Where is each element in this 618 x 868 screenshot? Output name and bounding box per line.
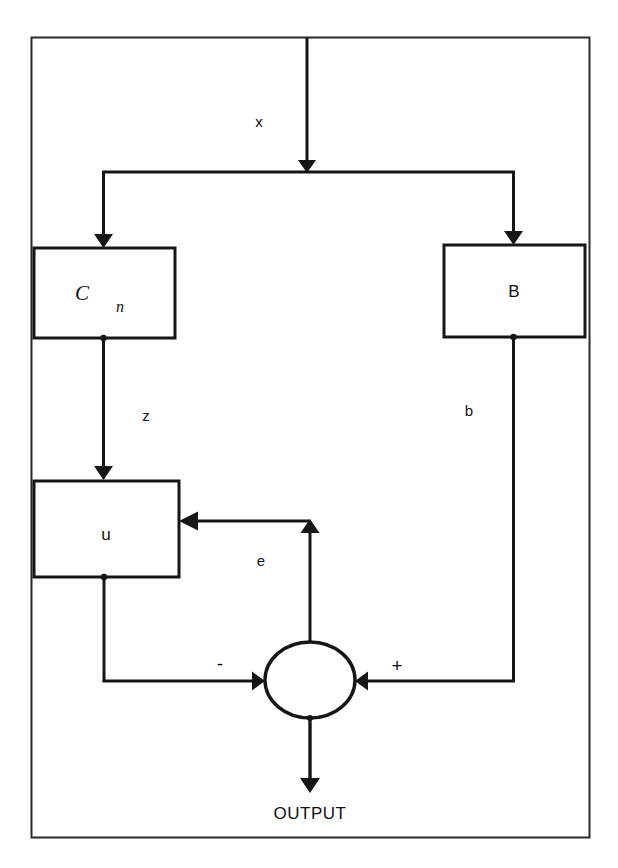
block-b-label: B [508,282,519,301]
label-minus-sign: - [217,653,223,674]
arrow-output [300,778,320,793]
label-output: OUTPUT [274,804,347,823]
label-signal-z: z [142,407,150,424]
block-cn-subscript: n [116,298,124,315]
summing-junction[interactable] [265,642,355,718]
arrow-into-u [94,466,113,480]
arrow-e-into-u [179,512,198,531]
label-signal-b: b [465,402,473,419]
arrow-into-cn [94,234,113,248]
arrow-u-into-sum [252,672,265,691]
block-cn-label: C [75,281,90,305]
label-signal-x: x [255,113,263,130]
block-diagram: C n B u x z b [0,0,618,868]
block-cn[interactable] [34,248,175,338]
label-signal-e: e [257,552,265,569]
label-plus-sign: + [391,655,402,676]
diagram-canvas: C n B u x z b [0,0,618,868]
arrow-into-b [504,231,523,245]
arrow-b-into-sum [355,672,368,691]
block-u-label: u [101,525,110,544]
